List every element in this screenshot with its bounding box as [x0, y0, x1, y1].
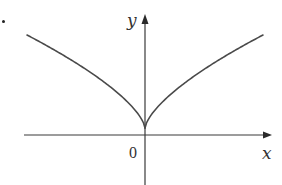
- y-axis-label: y: [127, 12, 137, 29]
- origin-label: 0: [129, 145, 137, 161]
- x-axis-label: x: [262, 145, 272, 162]
- curve-right-branch: [145, 35, 263, 128]
- curve-left-branch: [27, 35, 145, 128]
- x-axis-arrow-icon: [263, 132, 272, 139]
- cusp-curve-plot: [0, 0, 282, 185]
- y-axis-arrow-icon: [142, 14, 149, 24]
